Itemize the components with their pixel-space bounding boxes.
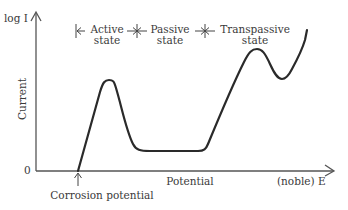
y-axis-label-current: Current — [17, 78, 28, 120]
origin-label: 0 — [24, 165, 31, 176]
region-label-transpassive: Transpassive state — [220, 24, 290, 46]
y-axis-label-log-i: log I — [4, 13, 28, 24]
region-boundary-passive-transpassive-icon — [195, 24, 215, 38]
x-axis-label-potential: Potential — [166, 176, 213, 187]
x-axis-label-noble-e: (noble) E — [277, 176, 326, 187]
region-boundary-active-passive-icon — [127, 24, 147, 38]
corrosion-potential-arrow-icon — [75, 173, 82, 186]
region-boundary-active-start-icon — [76, 24, 85, 38]
y-axis — [31, 12, 41, 171]
corrosion-potential-label: Corrosion potential — [50, 190, 153, 201]
region-label-active: Active state — [90, 24, 123, 46]
polarization-curve — [78, 30, 307, 171]
polarization-diagram: log I Current 0 Potential (noble) E Corr… — [0, 0, 348, 210]
region-label-passive: Passive state — [150, 24, 189, 46]
